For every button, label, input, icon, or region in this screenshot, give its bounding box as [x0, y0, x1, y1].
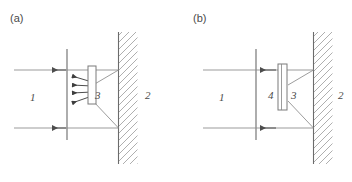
- panel-b-element-group: [278, 64, 287, 110]
- panel-a-outflow: [14, 70, 67, 128]
- panel-a-caption: (a): [10, 12, 23, 24]
- panel-a-label-3: 3: [94, 89, 101, 101]
- panel-b-label-2: 2: [338, 89, 344, 101]
- panel-b: (b): [193, 12, 344, 164]
- schematic-diagram: (a): [0, 0, 352, 182]
- panel-a-label-2: 2: [145, 89, 151, 101]
- panel-b-ray-diagonal-bottom: [288, 101, 314, 128]
- panel-a-label-1: 1: [30, 91, 36, 103]
- panel-a-wall: [119, 32, 138, 164]
- panel-a-ray-diagonal-bottom: [93, 101, 119, 128]
- figure-root: (a): [0, 0, 352, 182]
- panel-a-ray-diagonal-top: [93, 70, 119, 85]
- panel-a-wall-hatch: [119, 32, 138, 164]
- panel-b-caption: (b): [193, 12, 206, 24]
- panel-b-label-3: 3: [290, 89, 297, 101]
- panel-a: (a): [10, 12, 151, 164]
- panel-b-label-4: 4: [268, 89, 274, 101]
- panel-b-wall: [314, 32, 333, 164]
- panel-b-ray-diagonal-top: [288, 70, 314, 85]
- panel-b-outflow: [203, 70, 276, 128]
- panel-b-label-1: 1: [219, 91, 225, 103]
- panel-b-wall-hatch: [314, 32, 333, 164]
- panel-b-element-3: [278, 64, 287, 110]
